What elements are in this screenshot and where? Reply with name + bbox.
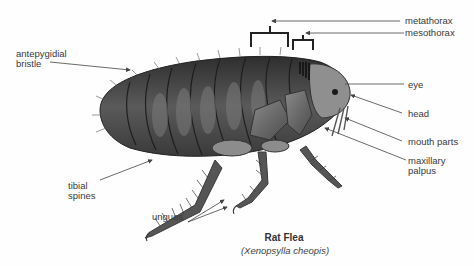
label-eye: eye (408, 80, 423, 90)
label-maxillary-palpus: maxillary palpus (408, 156, 445, 176)
label-tibial-spines: tibial spines (68, 181, 95, 201)
leader-maxillary (325, 128, 406, 160)
diagram-title: Rat Flea (214, 232, 354, 243)
label-ungues: ungues (152, 212, 183, 222)
label-metathorax: metathorax (405, 16, 453, 26)
mesothorax-bracket (293, 35, 313, 50)
hind-leg (145, 160, 222, 241)
leader-tibial (100, 160, 152, 180)
flea-body (92, 47, 350, 156)
leader-mouth-parts (345, 118, 402, 141)
metathorax-bracket (251, 26, 288, 47)
middle-leg (233, 152, 268, 214)
diagram-subtitle: (Xenopsylla cheopis) (205, 245, 365, 256)
label-head: head (408, 109, 429, 119)
flea-illustration (0, 0, 474, 266)
label-mouth-parts: mouth parts (408, 137, 458, 147)
label-antepygidial-bristle: antepygidial bristle (16, 49, 67, 69)
fore-leg (300, 146, 342, 188)
eye-spot (332, 89, 338, 95)
leader-head (351, 95, 402, 113)
flea-diagram: antepygidial bristle metathorax mesothor… (0, 0, 474, 266)
label-mesothorax: mesothorax (405, 28, 455, 38)
